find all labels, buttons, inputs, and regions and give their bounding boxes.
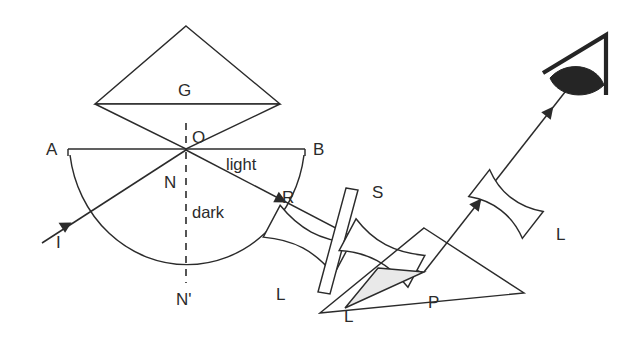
incident-ray-label: I — [56, 233, 61, 252]
half-disc-arc — [70, 155, 304, 265]
incident-ray-I — [42, 150, 186, 243]
region-dark-label: dark — [192, 203, 225, 221]
ray-to-eye-arrowhead-upper — [541, 103, 558, 120]
slit-S-label: S — [372, 183, 383, 202]
point-A-label: A — [46, 140, 58, 159]
observer-eye — [543, 35, 606, 95]
point-O-label: O — [192, 128, 205, 147]
point-N-label: N — [164, 173, 176, 192]
point-P-label: P — [428, 293, 439, 312]
ray-to-eye — [424, 78, 576, 272]
prism-P-shaded-region — [345, 268, 424, 308]
point-R-label: R — [282, 188, 294, 207]
point-B-label: B — [313, 140, 324, 159]
eye-pupil-shape — [550, 67, 604, 95]
prism-G-label: G — [178, 81, 191, 100]
prism-G-lower-wedge — [95, 104, 280, 149]
region-light-label: light — [226, 155, 257, 173]
optics-diagram: G A B O N N' I R — [0, 0, 642, 358]
lens-L3-label: L — [556, 225, 565, 244]
point-N-prime-label: N' — [176, 290, 192, 309]
optics-diagram-canvas: G A B O N N' I R — [0, 0, 642, 358]
lens-L1-label: L — [276, 285, 285, 304]
